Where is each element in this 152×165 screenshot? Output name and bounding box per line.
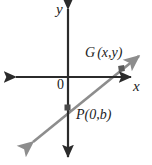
point-label-p: P(0,b) bbox=[76, 108, 111, 122]
point-label-g-name: G bbox=[85, 45, 95, 60]
point-marker-g bbox=[118, 65, 125, 72]
coordinate-plane-figure: y x 0 G(x,y) P(0,b) bbox=[0, 0, 152, 165]
point-label-p-coords: (0,b) bbox=[85, 107, 112, 122]
y-axis-label: y bbox=[56, 2, 63, 17]
point-label-p-name: P bbox=[76, 107, 85, 122]
point-marker-p bbox=[65, 105, 71, 111]
origin-label: 0 bbox=[57, 78, 64, 92]
point-label-g-coords: (x,y) bbox=[97, 45, 122, 60]
point-label-g: G(x,y) bbox=[85, 46, 122, 60]
graph-canvas bbox=[0, 0, 152, 165]
x-axis-label: x bbox=[133, 79, 140, 94]
